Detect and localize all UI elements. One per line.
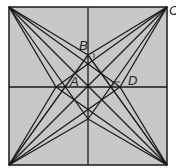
label-a: A xyxy=(69,74,79,89)
label-d: D xyxy=(128,73,137,88)
label-c: C xyxy=(169,3,176,18)
figure-svg: B A D C xyxy=(0,0,176,168)
geometry-figure: B A D C xyxy=(0,0,176,168)
label-b: B xyxy=(79,38,88,53)
